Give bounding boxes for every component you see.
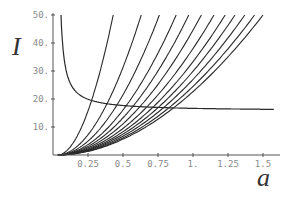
y-tick-label: 30. (33, 66, 49, 76)
x-axis-title: a (257, 163, 270, 192)
curve-increasing (58, 15, 176, 155)
plot-curves (58, 15, 274, 155)
y-tick-label: 10. (33, 122, 49, 132)
curve-increasing (58, 15, 113, 155)
curve-increasing (58, 15, 255, 155)
y-axis-title: I (11, 32, 22, 61)
curve-increasing (58, 15, 214, 155)
y-tick-label: 20. (33, 94, 49, 104)
x-tick-label: 0.75 (147, 159, 169, 169)
y-ticks: 10.20.30.40.50. (33, 10, 55, 132)
x-tick-label: 1.25 (217, 159, 239, 169)
y-tick-label: 50. (33, 10, 49, 20)
x-tick-label: 0.5 (115, 159, 131, 169)
chart: 0.250.50.751.1.251.5 10.20.30.40.50. I a (0, 0, 294, 198)
y-tick-label: 40. (33, 38, 49, 48)
x-tick-label: 1. (188, 159, 199, 169)
x-tick-label: 0.25 (77, 159, 99, 169)
curve-increasing (58, 15, 235, 155)
